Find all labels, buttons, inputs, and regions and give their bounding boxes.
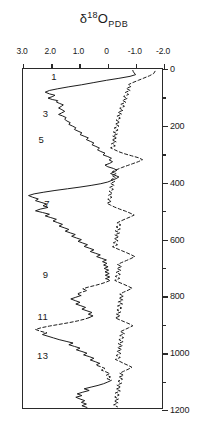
y-tick-label: 1200: [170, 405, 189, 415]
x-tick-label: -2.0: [156, 46, 170, 56]
standard-label: PDB: [108, 19, 128, 29]
x-axis-tick: [51, 64, 52, 69]
secondary-record-curve: [107, 71, 155, 407]
y-tick-label: 1000: [170, 348, 189, 358]
isotope-stage-label: 13: [37, 349, 48, 360]
y-axis-tick-minor: [162, 211, 166, 212]
y-axis-tick-major: [162, 353, 168, 354]
plot-area: 020040060080010001200135791113: [22, 68, 163, 409]
y-axis-tick-minor: [162, 97, 166, 98]
y-axis-tick-major: [162, 240, 168, 241]
isotope-stage-label: 9: [43, 268, 49, 279]
x-axis-tick-labels: 3.02.01.00-1.0-2.0: [0, 46, 208, 58]
x-axis-tick: [136, 64, 137, 69]
isotope-stage-label: 5: [38, 133, 44, 144]
primary-record-gaps: [36, 279, 112, 381]
x-tick-label: 3.0: [16, 46, 27, 56]
y-axis-tick-major: [162, 69, 168, 70]
x-axis-tick: [23, 64, 24, 69]
x-axis-tick: [108, 64, 109, 69]
x-axis-tick: [79, 64, 80, 69]
x-tick-label: 1.0: [73, 46, 84, 56]
y-axis-tick-major: [162, 410, 168, 411]
x-tick-label: 2.0: [45, 46, 56, 56]
y-tick-label: 200: [170, 121, 184, 131]
x-tick-label: -1.0: [128, 46, 142, 56]
y-axis-tick-major: [162, 126, 168, 127]
y-axis-tick-major: [162, 296, 168, 297]
mass-number: 18: [87, 10, 98, 20]
isotope-stage-label: 11: [37, 311, 48, 322]
isotope-stage-label: 3: [43, 108, 49, 119]
isotope-stage-label: 7: [44, 197, 50, 208]
y-tick-label: 800: [170, 291, 184, 301]
y-tick-label: 0: [170, 64, 175, 74]
chart-title: δ18OPDB: [0, 10, 208, 29]
isotope-stage-label: 1: [51, 71, 57, 82]
y-axis-tick-minor: [162, 382, 166, 383]
y-axis-tick-minor: [162, 154, 166, 155]
y-tick-label: 400: [170, 178, 184, 188]
y-axis-tick-minor: [162, 325, 166, 326]
y-axis-tick-minor: [162, 268, 166, 269]
y-tick-label: 600: [170, 235, 184, 245]
y-axis-tick-major: [162, 183, 168, 184]
x-tick-label: 0: [104, 46, 109, 56]
oxygen-symbol: O: [98, 11, 108, 26]
